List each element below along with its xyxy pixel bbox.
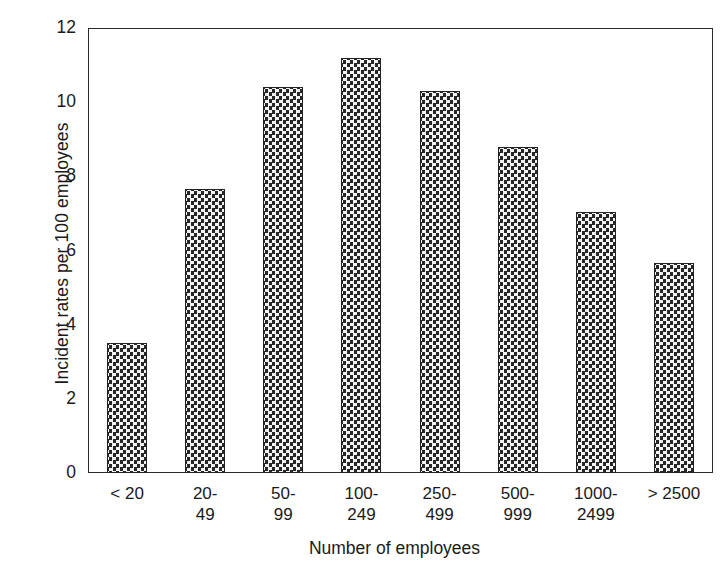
x-tick-label-line1: > 2500 (648, 484, 700, 503)
x-tick-label-line1: 100- (344, 484, 378, 503)
x-tick-label-line1: 250- (423, 484, 457, 503)
bar (185, 189, 225, 473)
x-tick-label-line1: < 20 (110, 484, 144, 503)
x-tick-label-line1: 1000- (574, 484, 617, 503)
x-tick-label-line1: 20- (193, 484, 218, 503)
y-tick-label: 2 (30, 388, 76, 409)
y-tick-label: 8 (30, 165, 76, 186)
y-tick-label: 6 (30, 240, 76, 261)
bar-chart: Incident rates per 100 employees 0246810… (0, 0, 727, 585)
x-tick-label-line1: 500- (501, 484, 535, 503)
y-tick-label: 4 (30, 314, 76, 335)
x-axis-title: Number of employees (0, 538, 727, 559)
bar (341, 58, 381, 473)
bar (654, 263, 694, 473)
bars-layer (88, 28, 713, 473)
x-tick-label-line2: 2499 (548, 504, 644, 525)
bar (107, 343, 147, 473)
bar (420, 91, 460, 473)
bar (576, 212, 616, 473)
y-tick-label: 12 (30, 17, 76, 38)
y-tick-label: 0 (30, 462, 76, 483)
bar (498, 147, 538, 473)
bar (263, 87, 303, 473)
y-tick-label: 10 (30, 91, 76, 112)
x-tick-label-line1: 50- (271, 484, 296, 503)
x-tick-label: > 2500 (626, 483, 722, 504)
